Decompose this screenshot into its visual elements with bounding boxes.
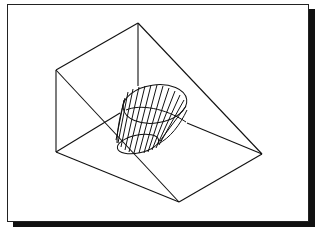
wireframe-diagram <box>0 0 318 230</box>
wedge-edges <box>56 23 262 202</box>
